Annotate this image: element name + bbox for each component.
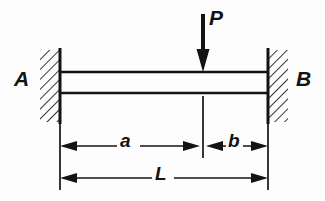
- beam-member: [60, 72, 268, 93]
- support-right-hatching: [268, 50, 288, 122]
- support-left-fixed: [40, 48, 60, 124]
- load-label-P: P: [209, 7, 223, 28]
- dimension-label-L: L: [155, 164, 167, 183]
- dimension-label-a: a: [120, 131, 131, 150]
- dimension-b-arrowhead-right: [251, 141, 268, 151]
- dimension-L-arrowhead-right: [251, 173, 268, 183]
- support-left-hatching: [40, 50, 60, 122]
- dimension-label-b: b: [228, 131, 240, 150]
- load-arrow-P: [197, 14, 210, 72]
- dimension-a-arrowhead-right: [183, 141, 200, 151]
- support-label-A: A: [14, 68, 29, 89]
- dimension-a-arrowhead-left: [60, 141, 77, 151]
- beam-diagram-figure: A B P a b L: [0, 0, 325, 201]
- load-arrow-head: [197, 49, 210, 72]
- dimension-b-arrowhead-left: [206, 141, 223, 151]
- dimension-L-arrowhead-left: [60, 173, 77, 183]
- support-right-fixed: [268, 48, 288, 124]
- support-label-B: B: [296, 68, 311, 89]
